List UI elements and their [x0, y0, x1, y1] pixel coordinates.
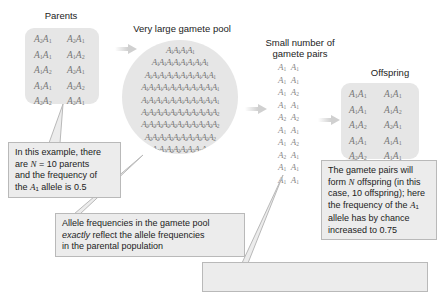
pool-callout-line1: Allele frequencies in the gamete pool [62, 218, 238, 230]
gamete-pairs-callout [202, 262, 428, 292]
offspring-callout-line1: The gamete pairs will [328, 165, 430, 177]
offspring-callout-line3: case, 10 offspring); here [328, 188, 430, 200]
offspring-callout: The gamete pairs will form N offspring (… [321, 160, 437, 240]
gamete-pool-callout: Allele frequencies in the gamete pool ex… [55, 213, 245, 257]
parents-callout-line1: In this example, there [15, 147, 114, 159]
parents-callout-line2: are N = 10 parents [15, 159, 114, 171]
offspring-callout-line4: the frequency of the A1 [328, 200, 430, 214]
offspring-callout-line2: form N offspring (in this [328, 177, 430, 189]
offspring-callout-line5: allele has by chance [328, 213, 430, 225]
pool-callout-line2: exactly reflect the allele frequencies [62, 230, 238, 242]
pool-callout-line3: in the parental population [62, 241, 238, 253]
parents-callout-line4: the A1 allele is 0.5 [15, 182, 114, 196]
parents-callout: In this example, there are N = 10 parent… [8, 142, 121, 198]
parents-callout-line3: and the frequency of [15, 170, 114, 182]
offspring-callout-line6: increased to 0.75 [328, 225, 430, 237]
